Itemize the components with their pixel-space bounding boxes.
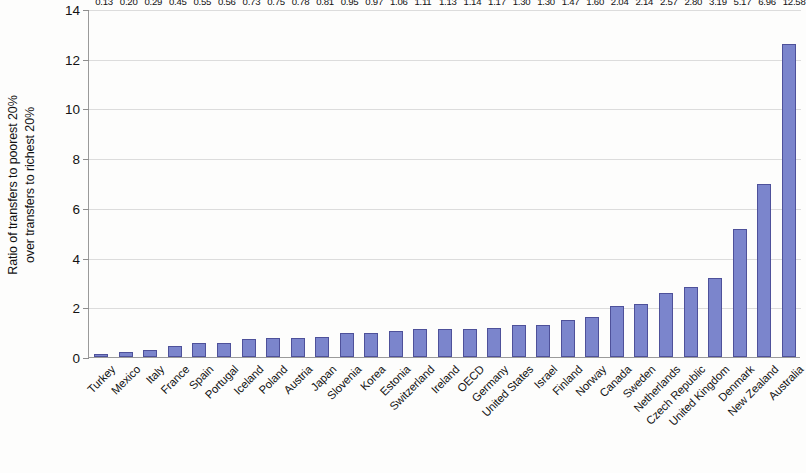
y-axis-tick-label: 0 bbox=[72, 351, 80, 366]
bar-value-label: 0.45 bbox=[169, 0, 187, 7]
bar[interactable]: 0.73 bbox=[242, 339, 256, 357]
tick-mark bbox=[83, 159, 89, 160]
bar-group[interactable]: 2.80 bbox=[684, 9, 698, 357]
y-axis-tick-label: 6 bbox=[72, 201, 80, 216]
bar-value-label: 1.11 bbox=[414, 0, 431, 7]
bar-value-label: 0.81 bbox=[316, 0, 334, 7]
bar[interactable]: 2.14 bbox=[634, 304, 648, 357]
bar-group[interactable]: 0.75 bbox=[266, 9, 280, 357]
bar-value-label: 0.13 bbox=[95, 0, 113, 7]
bar-value-label: 1.14 bbox=[464, 0, 482, 7]
y-axis-tick-label: 12 bbox=[65, 52, 80, 67]
bar-group[interactable]: 0.29 bbox=[143, 9, 157, 357]
bar-value-label: 1.60 bbox=[586, 0, 604, 7]
bar[interactable]: 1.06 bbox=[389, 331, 403, 357]
bar-group[interactable]: 1.13 bbox=[438, 9, 452, 357]
bar[interactable]: 0.95 bbox=[340, 333, 354, 357]
bar-value-label: 0.78 bbox=[292, 0, 310, 7]
y-axis-title-line-1: Ratio of transfers to poorest 20% bbox=[5, 95, 22, 274]
bar-group[interactable]: 5.17 bbox=[733, 9, 747, 357]
bar-group[interactable]: 0.13 bbox=[94, 9, 108, 357]
bar-group[interactable]: 1.30 bbox=[536, 9, 550, 357]
bar-group[interactable]: 1.11 bbox=[413, 9, 427, 357]
bar[interactable]: 1.14 bbox=[463, 329, 477, 357]
bar-group[interactable]: 1.17 bbox=[487, 9, 501, 357]
bar-group[interactable]: 0.45 bbox=[168, 9, 182, 357]
y-axis-title-line-2: over transfers to richest 20% bbox=[22, 107, 39, 263]
bar[interactable]: 0.29 bbox=[143, 350, 157, 357]
bar-value-label: 6.96 bbox=[758, 0, 776, 7]
bar[interactable]: 1.30 bbox=[512, 325, 526, 357]
bar-group[interactable]: 0.56 bbox=[217, 9, 231, 357]
y-axis-tick-label: 14 bbox=[65, 3, 80, 18]
bar-value-label: 0.75 bbox=[267, 0, 285, 7]
bar[interactable]: 2.80 bbox=[684, 287, 698, 357]
bar-group[interactable]: 1.47 bbox=[561, 9, 575, 357]
bar[interactable]: 3.19 bbox=[708, 278, 722, 357]
tick-mark bbox=[83, 259, 89, 260]
bar-group[interactable]: 2.14 bbox=[634, 9, 648, 357]
y-axis-tick-label: 10 bbox=[65, 102, 80, 117]
bar[interactable]: 0.20 bbox=[119, 352, 133, 357]
bar-value-label: 0.20 bbox=[120, 0, 138, 7]
bar[interactable]: 0.78 bbox=[291, 338, 305, 357]
bar-group[interactable]: 1.06 bbox=[389, 9, 403, 357]
bar[interactable]: 0.55 bbox=[192, 343, 206, 357]
bar[interactable]: 1.17 bbox=[487, 328, 501, 357]
bar[interactable]: 0.75 bbox=[266, 338, 280, 357]
bar-group[interactable]: 1.30 bbox=[512, 9, 526, 357]
bar-value-label: 12.58 bbox=[783, 0, 806, 7]
bar-value-label: 2.04 bbox=[611, 0, 629, 7]
bar[interactable]: 5.17 bbox=[733, 229, 747, 358]
bar-group[interactable]: 0.95 bbox=[340, 9, 354, 357]
bar-group[interactable]: 0.73 bbox=[242, 9, 256, 357]
bar[interactable]: 12.58 bbox=[782, 44, 796, 357]
bar[interactable]: 6.96 bbox=[757, 184, 771, 357]
bar[interactable]: 1.47 bbox=[561, 320, 575, 357]
bar-group[interactable]: 3.19 bbox=[708, 9, 722, 357]
bar-value-label: 0.97 bbox=[365, 0, 383, 7]
bar-value-label: 0.95 bbox=[341, 0, 359, 7]
bar[interactable]: 1.60 bbox=[585, 317, 599, 357]
bar[interactable]: 2.04 bbox=[610, 306, 624, 357]
bar-value-label: 2.57 bbox=[660, 0, 678, 7]
bar[interactable]: 0.97 bbox=[364, 333, 378, 357]
bar-group[interactable]: 0.55 bbox=[192, 9, 206, 357]
bar[interactable]: 0.13 bbox=[94, 354, 108, 357]
y-axis-tick-label: 8 bbox=[72, 152, 80, 167]
bar-value-label: 5.17 bbox=[734, 0, 752, 7]
bar[interactable]: 1.30 bbox=[536, 325, 550, 357]
bar[interactable]: 0.81 bbox=[315, 337, 329, 357]
bar-value-label: 0.55 bbox=[193, 0, 211, 7]
bar-group[interactable]: 0.78 bbox=[291, 9, 305, 357]
y-axis-tick-label: 2 bbox=[72, 301, 80, 316]
bar-value-label: 1.13 bbox=[439, 0, 457, 7]
bar-value-label: 1.06 bbox=[390, 0, 408, 7]
bar-value-label: 0.56 bbox=[218, 0, 236, 7]
tick-mark bbox=[83, 308, 89, 309]
bar[interactable]: 0.45 bbox=[168, 346, 182, 357]
bar-group[interactable]: 12.58 bbox=[782, 9, 796, 357]
bar-value-label: 0.73 bbox=[243, 0, 261, 7]
bar-group[interactable]: 0.81 bbox=[315, 9, 329, 357]
bar-value-label: 1.17 bbox=[488, 0, 506, 7]
bar-group[interactable]: 1.14 bbox=[463, 9, 477, 357]
bar[interactable]: 1.13 bbox=[438, 329, 452, 357]
bar-group[interactable]: 2.57 bbox=[659, 9, 673, 357]
bar-group[interactable]: 0.97 bbox=[364, 9, 378, 357]
bar-value-label: 2.14 bbox=[635, 0, 653, 7]
tick-mark bbox=[83, 358, 89, 359]
y-axis-title: Ratio of transfers to poorest 20% over t… bbox=[2, 20, 42, 350]
bar[interactable]: 0.56 bbox=[217, 343, 231, 357]
bar-value-label: 0.29 bbox=[144, 0, 162, 7]
tick-mark bbox=[83, 209, 89, 210]
bar-group[interactable]: 6.96 bbox=[757, 9, 771, 357]
bar-group[interactable]: 2.04 bbox=[610, 9, 624, 357]
tick-mark bbox=[83, 60, 89, 61]
bar[interactable]: 2.57 bbox=[659, 293, 673, 357]
bar-value-label: 3.19 bbox=[709, 0, 727, 7]
bar[interactable]: 1.11 bbox=[413, 329, 427, 357]
tick-mark bbox=[83, 109, 89, 110]
bar-group[interactable]: 1.60 bbox=[585, 9, 599, 357]
bar-group[interactable]: 0.20 bbox=[119, 9, 133, 357]
